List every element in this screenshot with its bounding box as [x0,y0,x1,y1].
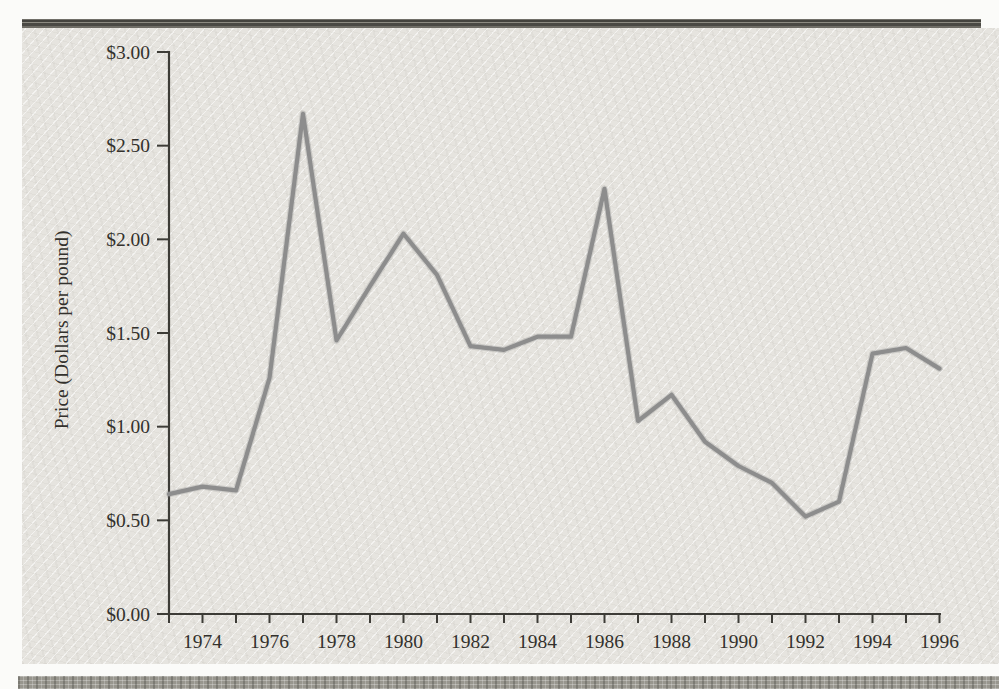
y-tick-label: $0.50 [106,510,150,531]
price-series-line [169,114,940,517]
y-tick-label: $1.50 [106,323,150,344]
x-tick-label: 1992 [786,631,825,652]
x-tick-label: 1996 [920,631,959,652]
x-tick-label: 1978 [317,631,356,652]
bottom-page-strip [18,676,999,689]
top-rule [22,19,981,28]
scanned-book-page: $0.00$0.50$1.00$1.50$2.00$2.50$3.0019741… [0,0,999,689]
x-tick-label: 1994 [853,631,892,652]
x-tick-label: 1990 [719,631,758,652]
y-tick-label: $0.00 [106,604,150,625]
x-tick-label: 1984 [518,631,557,652]
x-tick-label: 1976 [250,631,289,652]
chart-panel: $0.00$0.50$1.00$1.50$2.00$2.50$3.0019741… [22,28,999,664]
x-tick-label: 1986 [585,631,624,652]
x-tick-label: 1988 [652,631,691,652]
y-axis-title: Price (Dollars per pound) [51,231,73,430]
coffee-price-line-chart: $0.00$0.50$1.00$1.50$2.00$2.50$3.0019741… [22,28,999,664]
y-tick-label: $2.50 [106,135,150,156]
y-tick-label: $1.00 [106,416,150,437]
x-tick-label: 1982 [451,631,490,652]
y-tick-label: $2.00 [106,229,150,250]
y-tick-label: $3.00 [106,42,150,63]
x-tick-label: 1980 [384,631,423,652]
x-tick-label: 1974 [183,631,222,652]
price-series-halo [169,114,940,517]
